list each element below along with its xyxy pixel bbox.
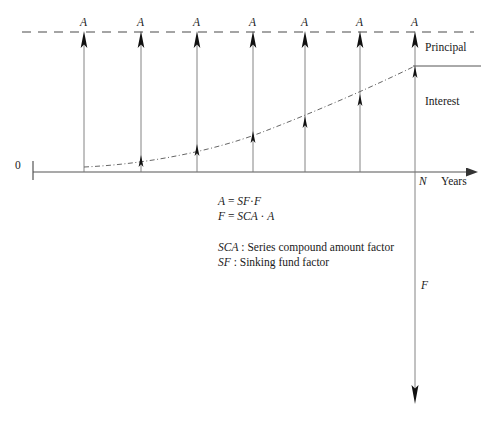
legend-entry-sf: SF : Sinking fund factor — [218, 257, 329, 269]
legend-definition-sca: Series compound amount factor — [247, 241, 394, 253]
payment-arrow-5 — [302, 31, 309, 172]
origin-label: 0 — [15, 160, 21, 172]
equation-1-factor: SF — [237, 195, 250, 207]
equation-2-factor: SCA — [237, 210, 257, 222]
payment-arrow-4 — [250, 31, 257, 172]
equation-2-var: A — [267, 210, 274, 222]
curve-increment-arrowheads — [139, 66, 418, 167]
payment-label-4: A — [249, 17, 256, 29]
payment-label-2: A — [137, 17, 144, 29]
legend-separator-sf: : — [231, 256, 240, 268]
payment-arrow-2 — [138, 31, 145, 172]
future-value-arrow — [412, 172, 419, 404]
payment-label-7: A — [411, 17, 418, 29]
future-value-label: F — [421, 280, 428, 292]
equation-1: A = SF·F — [218, 196, 261, 208]
equation-2-lhs: F — [218, 210, 225, 222]
payment-arrow-7 — [412, 31, 419, 172]
payment-label-6: A — [356, 17, 363, 29]
principal-label: Principal — [425, 42, 467, 54]
x-axis-label: Years — [441, 176, 467, 188]
payment-label-1: A — [80, 17, 87, 29]
cash-flow-diagram: A A A A A A A 0 N Years Principal Intere… — [0, 0, 496, 421]
legend-definition-sf: Sinking fund factor — [240, 256, 329, 268]
payment-arrow-group — [81, 31, 419, 172]
legend-entry-sca: SCA : Series compound amount factor — [218, 242, 394, 254]
period-end-label: N — [419, 176, 427, 188]
legend-symbol-sf: SF — [218, 256, 231, 268]
equation-2: F = SCA · A — [218, 211, 274, 223]
legend-symbol-sca: SCA — [218, 241, 238, 253]
payment-label-3: A — [193, 17, 200, 29]
equation-1-lhs: A — [218, 195, 225, 207]
payment-label-5: A — [301, 17, 308, 29]
interest-label: Interest — [425, 96, 459, 108]
accumulated-balance-curve — [84, 66, 415, 167]
payment-arrow-1 — [81, 31, 88, 172]
equation-1-var: F — [254, 195, 261, 207]
